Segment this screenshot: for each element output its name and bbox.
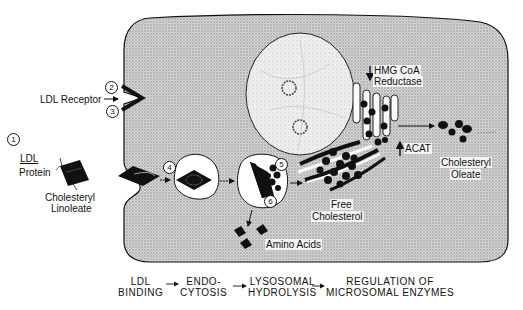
step-marker-5: 5 — [275, 158, 288, 171]
step-marker-2: 2 — [105, 81, 118, 94]
cholesteryl-linoleate-label-2: Linoleate — [51, 203, 92, 214]
free-cholesterol-label-1: Free — [330, 199, 353, 210]
ldl-particle — [60, 160, 89, 186]
step-marker-1: 1 — [7, 133, 20, 146]
step-marker-3: 3 — [106, 105, 119, 118]
pathway-step-ldl-binding: LDL BINDING — [118, 276, 163, 298]
cholesteryl-oleate-label-2: Oleate — [450, 169, 481, 180]
step-marker-4: 4 — [163, 161, 176, 174]
hmg-coa-label-2: Reductase — [373, 76, 423, 87]
acat-label: ACAT — [404, 143, 432, 154]
hmg-coa-label-1: HMG CoA — [373, 65, 421, 76]
cell-diagram — [0, 0, 523, 310]
ldl-label: LDL — [20, 153, 38, 164]
pathway-step-endocytosis: ENDO- CYTOSIS — [180, 276, 227, 298]
pathway-step-lysosomal-hydrolysis: LYSOSOMAL HYDROLYSIS — [248, 276, 317, 298]
cholesteryl-oleate-label-1: Cholesteryl — [440, 157, 492, 168]
pathway-step-regulation: REGULATION OF MICROSOMAL ENZYMES — [326, 276, 454, 298]
step-marker-6: 6 — [264, 195, 277, 208]
free-cholesterol-label-2: Cholesterol — [311, 211, 364, 222]
ldl-receptor-label: LDL Receptor — [40, 94, 101, 105]
amino-acids-label: Amino Acids — [265, 239, 322, 250]
protein-label: Protein — [19, 167, 51, 178]
nucleus — [246, 33, 354, 155]
cholesteryl-linoleate-label-1: Cholesteryl — [45, 192, 95, 203]
